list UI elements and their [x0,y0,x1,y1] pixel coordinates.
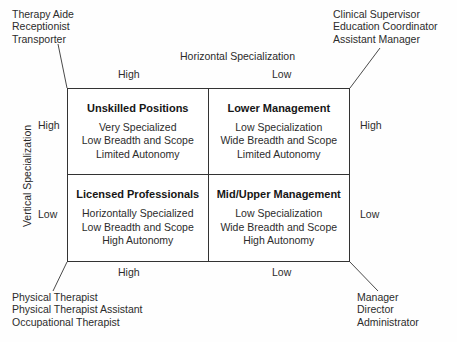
tick-top-high: High [118,68,140,80]
callout-top-right-line-3: Assistant Manager [333,33,437,45]
quadrant-title: Licensed Professionals [76,188,199,200]
specialization-matrix: Unskilled Positions Very Specialized Low… [67,88,350,262]
quadrant-attribute: Wide Breadth and Scope [220,221,337,235]
callout-top-right-line-2: Education Coordinator [333,20,437,32]
leader-line-bottom-left [53,262,67,291]
clipped-text-artifact [10,333,145,342]
callout-bottom-right-line-1: Manager [357,291,419,303]
quadrant-attribute: High Autonomy [243,234,314,248]
tick-top-low: Low [272,68,291,80]
callout-bottom-left-line-1: Physical Therapist [12,291,143,303]
vertical-axis-title: Vertical Specialization [21,96,33,256]
tick-left-low: Low [38,208,57,220]
callout-top-left-line-3: Transporter [12,33,74,45]
quadrant-licensed-professionals: Licensed Professionals Horizontally Spec… [68,175,209,261]
callout-bottom-left: Physical Therapist Physical Therapist As… [12,291,143,328]
quadrant-attribute: Low Specialization [235,121,322,135]
quadrant-attribute: Low Breadth and Scope [82,221,194,235]
tick-right-high: High [360,119,382,131]
callout-top-left-line-2: Receptionist [12,20,74,32]
callout-bottom-right-line-2: Director [357,303,419,315]
quadrant-attribute: Low Specialization [235,207,322,221]
quadrant-attribute: High Autonomy [102,234,173,248]
tick-bottom-high: High [118,266,140,278]
callout-bottom-left-line-2: Physical Therapist Assistant [12,303,143,315]
tick-bottom-low: Low [272,266,291,278]
callout-top-right: Clinical Supervisor Education Coordinato… [333,8,437,45]
tick-right-low: Low [360,208,379,220]
quadrant-attribute: Very Specialized [99,121,177,135]
quadrant-lower-management: Lower Management Low Specialization Wide… [209,89,350,175]
quadrant-attribute: Wide Breadth and Scope [220,134,337,148]
quadrant-unskilled-positions: Unskilled Positions Very Specialized Low… [68,89,209,175]
quadrant-title: Mid/Upper Management [217,188,341,200]
leader-line-bottom-right [350,262,378,291]
quadrant-attribute: Limited Autonomy [237,148,320,162]
quadrant-title: Lower Management [227,102,330,114]
callout-top-left-line-1: Therapy Aide [12,8,74,20]
tick-left-high: High [38,119,60,131]
quadrant-attribute: Horizontally Specialized [82,207,193,221]
callout-top-left: Therapy Aide Receptionist Transporter [12,8,74,45]
callout-bottom-right: Manager Director Administrator [357,291,419,328]
callout-top-right-line-1: Clinical Supervisor [333,8,437,20]
callout-bottom-left-line-3: Occupational Therapist [12,316,143,328]
quadrant-attribute: Low Breadth and Scope [82,134,194,148]
quadrant-mid-upper-management: Mid/Upper Management Low Specialization … [209,175,350,261]
callout-bottom-right-line-3: Administrator [357,316,419,328]
quadrant-title: Unskilled Positions [87,102,188,114]
horizontal-axis-title: Horizontal Specialization [0,50,457,62]
quadrant-attribute: Limited Autonomy [96,148,179,162]
diagram-canvas: Therapy Aide Receptionist Transporter Cl… [0,0,457,342]
